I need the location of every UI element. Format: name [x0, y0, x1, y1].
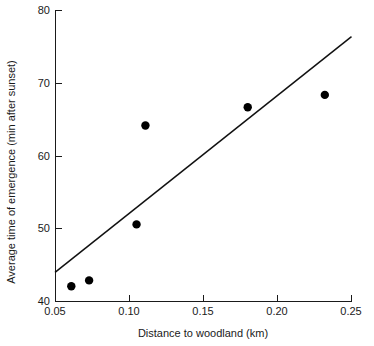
y-axis-title: Average time of emergence (min after sun…: [5, 60, 17, 284]
data-point: [67, 282, 75, 290]
x-tick-label-020: 0.20: [266, 305, 287, 317]
x-tick-label-010: 0.10: [118, 305, 139, 317]
x-axis-ticks: [56, 295, 352, 302]
data-point: [321, 91, 329, 99]
y-axis-ticks: [56, 11, 63, 302]
y-tick-label-60: 60: [38, 150, 50, 162]
x-tick-label-015: 0.15: [192, 305, 213, 317]
data-point: [244, 103, 252, 111]
y-tick-label-50: 50: [38, 222, 50, 234]
data-point: [85, 276, 93, 284]
data-points-group: [67, 91, 329, 291]
x-tick-label-025: 0.25: [340, 305, 361, 317]
y-tick-label-70: 70: [38, 77, 50, 89]
plot-canvas: 80 70 60 50 40 0.05 0.10 0.15 0.20 0.25 …: [0, 0, 374, 346]
x-axis-title: Distance to woodland (km): [138, 327, 268, 339]
regression-line: [55, 37, 352, 273]
data-point: [132, 220, 140, 228]
data-point: [141, 121, 149, 129]
y-tick-label-80: 80: [38, 4, 50, 16]
scatter-plot-figure: 80 70 60 50 40 0.05 0.10 0.15 0.20 0.25 …: [0, 0, 374, 346]
x-tick-label-005: 0.05: [44, 305, 65, 317]
